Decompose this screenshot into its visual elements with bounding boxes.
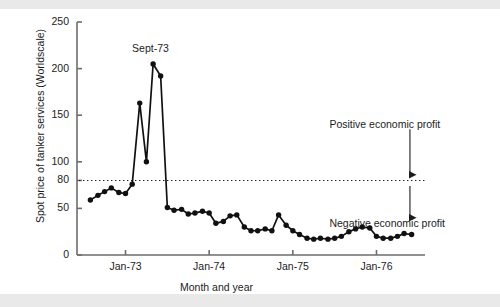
price-series-line <box>88 61 415 242</box>
axes <box>77 22 425 255</box>
tanker-spot-price-chart: Spot price of tanker services (Worldscal… <box>0 0 500 307</box>
plot-canvas <box>0 0 500 307</box>
